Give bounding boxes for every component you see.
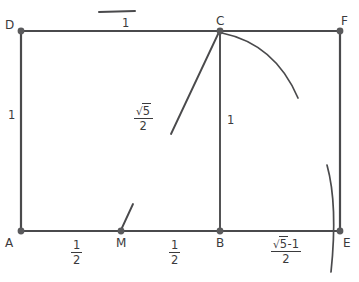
point-label-E: E (343, 237, 351, 249)
be-length-suffix: -1 (288, 237, 299, 251)
cm-length-denominator: 2 (134, 119, 153, 132)
segment-CM-upper (171, 32, 219, 134)
am-half-numerator: 1 (71, 239, 82, 253)
cm-length-numerator: √5 (134, 105, 153, 119)
measure-label-mb-half: 1 2 (169, 239, 180, 266)
vertex-dot-A (18, 228, 25, 235)
point-label-F: F (341, 15, 348, 27)
vertex-dot-E (337, 228, 344, 235)
mb-half-numerator: 1 (169, 239, 180, 253)
vertex-dot-M (118, 228, 125, 235)
measure-label-be-length: √5-1 2 (271, 238, 301, 265)
vertex-dot-D (18, 28, 25, 35)
be-length-radicand: 5 (279, 236, 287, 251)
geometry-figure: D C F A M B E 1 1 1 1 2 1 2 √5 2 √5-1 2 (0, 0, 359, 282)
point-label-B: B (216, 237, 224, 249)
measure-label-left-side: 1 (8, 110, 15, 122)
vertex-dot-F (337, 28, 344, 35)
point-label-C: C (216, 15, 224, 27)
vertex-dot-B (217, 228, 224, 235)
am-half-denominator: 2 (71, 253, 82, 266)
segment-CM-lower (121, 204, 133, 230)
measure-label-cb: 1 (227, 115, 234, 127)
vertex-dots (18, 28, 344, 235)
point-label-M: M (116, 237, 126, 249)
arc-from-c (222, 33, 298, 98)
vertex-dot-C (217, 28, 224, 35)
be-length-numerator: √5-1 (271, 238, 301, 252)
be-length-denominator: 2 (271, 252, 301, 265)
measure-label-top-side: 1 (122, 18, 129, 30)
rectangle-outline (21, 31, 340, 231)
arc-through-e (327, 165, 334, 272)
point-label-D: D (5, 19, 14, 31)
point-label-A: A (5, 237, 13, 249)
measure-label-cm-length: √5 2 (134, 105, 153, 132)
mb-half-denominator: 2 (169, 253, 180, 266)
measure-label-am-half: 1 2 (71, 239, 82, 266)
cm-length-radicand: 5 (142, 103, 150, 118)
measure-tick-top (99, 11, 135, 12)
